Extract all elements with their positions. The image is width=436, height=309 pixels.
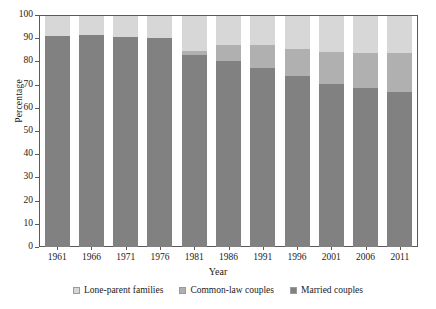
bar-segment[interactable] <box>387 53 412 91</box>
y-tick-mark <box>35 131 39 132</box>
chart-legend: Lone-parent familiesCommon-law couplesMa… <box>0 285 436 295</box>
legend-item[interactable]: Lone-parent families <box>73 285 163 295</box>
bar-segment[interactable] <box>216 45 241 61</box>
y-tick-label: 100 <box>19 8 33 20</box>
legend-label: Married couples <box>301 285 363 295</box>
legend-label: Lone-parent families <box>84 285 163 295</box>
y-tick-mark <box>35 15 39 16</box>
bar-segment[interactable] <box>182 16 207 51</box>
bar-group[interactable] <box>147 16 172 247</box>
x-tick-mark <box>297 247 298 250</box>
bar-segment[interactable] <box>182 51 207 56</box>
x-tick-mark <box>400 247 401 250</box>
bars-layer <box>40 16 417 247</box>
bar-segment[interactable] <box>319 84 344 247</box>
x-tick-mark <box>263 247 264 250</box>
bar-segment[interactable] <box>387 92 412 247</box>
bar-group[interactable] <box>387 16 412 247</box>
y-tick-mark <box>35 108 39 109</box>
x-tick-mark <box>57 247 58 250</box>
bar-segment[interactable] <box>285 49 310 76</box>
bar-segment[interactable] <box>353 88 378 247</box>
bar-group[interactable] <box>113 16 138 247</box>
bar-segment[interactable] <box>45 16 70 36</box>
y-tick-label: 0 <box>28 240 33 252</box>
bar-group[interactable] <box>250 16 275 247</box>
y-tick-mark <box>35 201 39 202</box>
x-tick-mark <box>91 247 92 250</box>
bar-segment[interactable] <box>319 16 344 52</box>
y-tick-label: 50 <box>24 124 34 136</box>
y-tick-mark <box>35 224 39 225</box>
y-tick-label: 10 <box>24 217 34 229</box>
y-tick-label: 60 <box>24 101 34 113</box>
bar-segment[interactable] <box>285 76 310 247</box>
legend-item[interactable]: Married couples <box>290 285 363 295</box>
bar-group[interactable] <box>45 16 70 247</box>
y-tick-mark <box>35 61 39 62</box>
bar-group[interactable] <box>319 16 344 247</box>
bar-group[interactable] <box>216 16 241 247</box>
x-tick-mark <box>229 247 230 250</box>
y-tick-label: 30 <box>24 170 34 182</box>
legend-swatch-icon <box>179 287 186 294</box>
x-axis-title: Year <box>0 266 436 277</box>
legend-item[interactable]: Common-law couples <box>179 285 274 295</box>
stacked-bar-chart: Percentage 0102030405060708090100 196119… <box>0 0 436 309</box>
bar-segment[interactable] <box>250 68 275 247</box>
bar-segment[interactable] <box>285 16 310 49</box>
bar-segment[interactable] <box>79 16 104 35</box>
y-tick-mark <box>35 177 39 178</box>
legend-swatch-icon <box>73 287 80 294</box>
bar-segment[interactable] <box>250 16 275 45</box>
bar-segment[interactable] <box>113 16 138 37</box>
x-tick-mark <box>194 247 195 250</box>
y-tick-label: 80 <box>24 54 34 66</box>
bar-segment[interactable] <box>319 52 344 84</box>
bar-segment[interactable] <box>216 16 241 45</box>
bar-segment[interactable] <box>353 53 378 88</box>
y-tick-label: 70 <box>24 78 34 90</box>
y-tick-label: 40 <box>24 147 34 159</box>
y-tick-mark <box>35 154 39 155</box>
y-tick-label: 90 <box>24 31 34 43</box>
bar-segment[interactable] <box>79 35 104 247</box>
bar-group[interactable] <box>285 16 310 247</box>
bar-segment[interactable] <box>216 61 241 247</box>
y-tick-mark <box>35 38 39 39</box>
legend-label: Common-law couples <box>190 285 274 295</box>
x-tick-mark <box>366 247 367 250</box>
bar-segment[interactable] <box>387 16 412 53</box>
bar-group[interactable] <box>182 16 207 247</box>
x-tick-mark <box>126 247 127 250</box>
y-tick-label: 20 <box>24 194 34 206</box>
bar-group[interactable] <box>353 16 378 247</box>
bar-segment[interactable] <box>182 55 207 247</box>
y-tick-mark <box>35 85 39 86</box>
bar-segment[interactable] <box>45 36 70 247</box>
legend-swatch-icon <box>290 287 297 294</box>
x-tick-label: 2011 <box>380 248 420 262</box>
bar-segment[interactable] <box>147 38 172 247</box>
x-tick-mark <box>160 247 161 250</box>
bar-segment[interactable] <box>147 16 172 38</box>
bar-segment[interactable] <box>353 16 378 53</box>
bar-segment[interactable] <box>250 45 275 68</box>
x-tick-mark <box>331 247 332 250</box>
x-tick: 2011 <box>380 248 420 262</box>
bar-group[interactable] <box>79 16 104 247</box>
y-axis-title: Percentage <box>14 46 24 156</box>
bar-segment[interactable] <box>113 37 138 247</box>
